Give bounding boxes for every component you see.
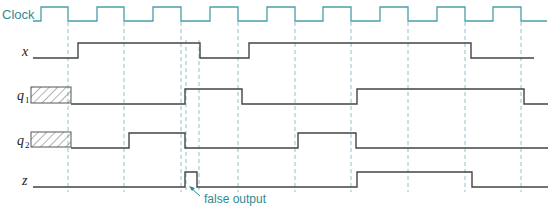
q2-unknown-region bbox=[31, 132, 71, 147]
q2-waveform bbox=[71, 133, 548, 148]
z-waveform bbox=[33, 172, 548, 187]
q1-label: q 1 bbox=[17, 88, 30, 105]
q1-unknown-region bbox=[31, 87, 71, 103]
q1-waveform bbox=[71, 89, 548, 104]
q2-label: q 2 bbox=[17, 133, 30, 150]
z-label: z bbox=[21, 173, 28, 188]
false-output-annotation: false output bbox=[204, 192, 267, 206]
q1-subscript: 1 bbox=[25, 95, 30, 105]
x-waveform bbox=[33, 43, 534, 58]
clock-label: Clock bbox=[2, 7, 35, 22]
x-label: x bbox=[21, 44, 29, 59]
waveforms bbox=[33, 7, 548, 187]
q2-subscript: 2 bbox=[25, 140, 30, 150]
svg-text:q: q bbox=[17, 88, 24, 103]
clock-edge-guides bbox=[68, 22, 521, 192]
clock-waveform bbox=[33, 7, 547, 21]
svg-text:q: q bbox=[17, 133, 24, 148]
timing-diagram: Clock x q 1 q 2 z false output bbox=[0, 0, 551, 210]
